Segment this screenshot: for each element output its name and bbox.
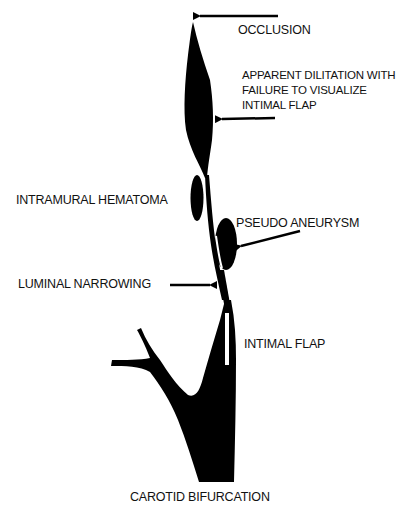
arrow-pseudo-aneurysm xyxy=(241,231,300,246)
label-intimal-flap: INTIMAL FLAP xyxy=(244,337,325,352)
arrow-dilitation xyxy=(222,118,275,119)
label-luminal-narrowing: LUMINAL NARROWING xyxy=(18,277,151,292)
pseudo-aneurysm-shape xyxy=(215,218,237,270)
carotid-bifurcation-shape xyxy=(111,300,236,482)
label-occlusion: OCCLUSION xyxy=(238,23,311,38)
intramural-hematoma-shape xyxy=(191,175,204,221)
label-carotid-bifurcation: CAROTID BIFURCATION xyxy=(130,490,270,505)
intimal-flap-line xyxy=(225,313,229,365)
occluded-dilated-segment xyxy=(185,22,214,178)
label-apparent-dilitation: APPARENT DILITATION WITH FAILURE TO VISU… xyxy=(242,68,404,113)
label-pseudo-aneurysm: PSEUDO ANEURYSM xyxy=(236,216,359,231)
label-intramural-hematoma: INTRAMURAL HEMATOMA xyxy=(16,193,168,208)
carotid-dissection-diagram: OCCLUSION APPARENT DILITATION WITH FAILU… xyxy=(0,0,404,517)
